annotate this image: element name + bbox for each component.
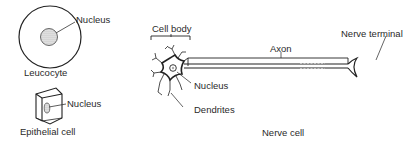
axon-label: Axon: [270, 43, 292, 54]
nerve-terminal-label: Nerve terminal: [341, 28, 403, 39]
epithelial-cell-illustration: [36, 88, 66, 124]
dendrites-label: Dendrites: [194, 104, 235, 115]
nerve-cell-illustration: [151, 34, 386, 107]
cell-body-label: Cell body: [152, 23, 192, 34]
epithelial-nucleus-label: Nucleus: [67, 98, 101, 109]
leucocyte-illustration: [19, 6, 81, 68]
neuron-nucleus-label: Nucleus: [194, 80, 228, 91]
leucocyte-nucleus-label: Nucleus: [76, 14, 110, 25]
dendrites-leader-line: [171, 93, 183, 107]
cell-body-bracket: [151, 36, 190, 40]
nerve-cell-caption: Nerve cell: [262, 127, 304, 138]
epithelial-caption: Epithelial cell: [20, 126, 75, 137]
nerve-terminal-leader-line: [376, 36, 386, 60]
nerve-terminal-shape: [348, 58, 357, 77]
leucocyte-caption: Leucocyte: [24, 67, 67, 78]
